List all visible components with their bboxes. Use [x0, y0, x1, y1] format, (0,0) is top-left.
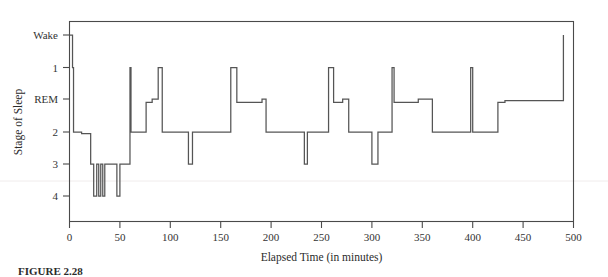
x-tick-label-350: 350: [414, 231, 431, 243]
x-tick-label-400: 400: [464, 231, 481, 243]
x-tick-label-150: 150: [212, 231, 229, 243]
y-tick-label-wake: Wake: [33, 29, 58, 41]
x-tick-label-0: 0: [67, 231, 73, 243]
x-axis-tick-labels: 0 50 100 150 200 250 300 350 400 450 500: [67, 231, 583, 243]
y-axis-title: Stage of Sleep: [12, 89, 25, 156]
y-tick-label-1: 1: [53, 62, 59, 74]
sleep-stage-chart: Wake 1 REM 2 3 4 Stage of Sleep 0 50: [0, 0, 608, 277]
sleep-stage-figure: Wake 1 REM 2 3 4 Stage of Sleep 0 50: [0, 0, 608, 277]
sleep-stage-trace: [70, 35, 564, 196]
y-tick-label-rem: REM: [34, 93, 58, 105]
y-tick-label-2: 2: [53, 126, 59, 138]
x-tick-label-50: 50: [114, 231, 126, 243]
y-tick-label-3: 3: [53, 158, 59, 170]
y-axis-ticks: [63, 35, 70, 196]
x-tick-label-100: 100: [162, 231, 179, 243]
figure-caption: FIGURE 2.28: [18, 265, 83, 277]
x-axis-title: Elapsed Time (in minutes): [261, 251, 383, 264]
x-tick-label-300: 300: [364, 231, 381, 243]
y-axis-tick-labels: Wake 1 REM 2 3 4: [33, 29, 58, 202]
x-tick-label-250: 250: [313, 231, 330, 243]
x-tick-label-500: 500: [565, 231, 582, 243]
x-tick-label-200: 200: [263, 231, 280, 243]
x-axis-ticks: [70, 222, 574, 229]
x-tick-label-450: 450: [515, 231, 532, 243]
y-tick-label-4: 4: [53, 190, 59, 202]
